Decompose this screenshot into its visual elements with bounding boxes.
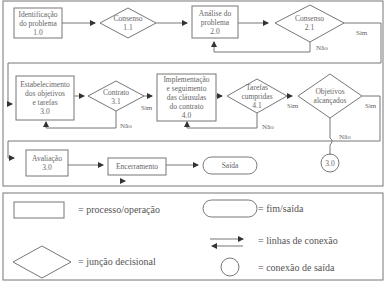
avaliacao-text: Avaliação 3.0 [26,154,68,172]
estabelecimento-text: Estabelecimento dos objetivos e tarefas … [16,80,74,116]
legend-decision-shape [13,246,71,278]
encerramento-text: Encerramento [108,162,166,171]
objetivos-text: Objetivos alcançados [298,87,362,105]
edge-label-nao: Não [262,123,274,131]
legend-terminal-label: = fim/saída [258,203,303,214]
edge-label-nao: Não [120,122,132,130]
legend-connector-shape [221,258,239,276]
edge-label-sim: Sim [141,104,152,112]
legend-decision-label: = junção decisional [78,256,156,267]
analise-text: Análise do problema 2.0 [192,9,238,36]
tarefas-text: Tarefas cumpridas 4.1 [227,83,287,110]
consenso-1-1-text: Consenso 1.1 [100,14,156,32]
connector-text: 3.0 [321,159,339,168]
flowchart-canvas [0,0,386,294]
identificacao-text: Identificação do problema 1.0 [14,10,62,37]
legend-connector-label: = conexão de saída [258,262,334,273]
legend-process-label: = processo/operação [78,204,160,215]
edge-label-sim: Sim [287,102,298,110]
edge-label-nao: Não [316,44,328,52]
legend-terminal-shape [203,200,257,217]
saida-text: Saída [203,161,257,170]
edge-label-sim: Sim [365,102,376,110]
consenso-2-1-text: Consenso 2.1 [275,14,344,32]
contrato-text: Contrato 3.1 [88,88,144,106]
edge-label-nao: Não [339,133,351,141]
legend-process-shape [14,202,64,218]
implementacao-text: Implementação e seguimento das cláusulas… [157,75,216,120]
edge-label-sim: Sim [356,29,367,37]
legend-lines-label: = linhas de conexão [258,235,338,246]
